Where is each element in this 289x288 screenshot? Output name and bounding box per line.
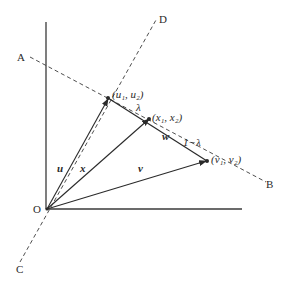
label-u-point: (u₁, u₂) — [112, 88, 144, 101]
label-x-point: (x₁, x₂) — [152, 111, 183, 124]
label-vector-x: x — [79, 162, 86, 174]
label-o: O — [33, 203, 41, 215]
label-b: B — [266, 178, 273, 190]
label-d: D — [159, 13, 167, 25]
segment-uv — [108, 98, 207, 161]
label-lambda: λ — [135, 101, 141, 113]
point-x — [147, 117, 151, 121]
label-vector-w: w — [162, 130, 170, 142]
label-one-minus-lambda: 1−λ — [183, 136, 201, 148]
label-a: A — [17, 51, 25, 63]
vector-diagram: A B C D O (u₁, u₂) (x₁, x₂) (v₁, v₂) λ 1… — [0, 0, 289, 288]
line-cd — [20, 20, 156, 262]
label-v-point: (v₁, v₂) — [211, 153, 242, 166]
point-u — [106, 96, 110, 100]
label-vector-v: v — [138, 162, 143, 174]
vector-v — [47, 161, 206, 209]
point-o — [45, 207, 48, 210]
label-c: C — [16, 263, 23, 275]
label-vector-u: u — [57, 162, 63, 174]
vector-u — [47, 99, 108, 209]
point-v — [205, 159, 209, 163]
